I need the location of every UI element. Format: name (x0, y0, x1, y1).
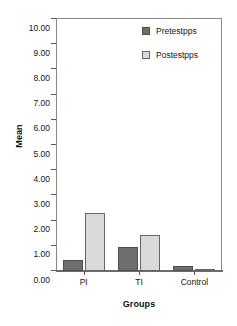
y-axis-tick-label: 10.00 (14, 24, 50, 33)
y-axis-tick-mark (51, 94, 56, 95)
bar-ti-postest (140, 235, 160, 271)
y-axis-tick-label: 2.00 (14, 225, 50, 234)
x-axis-tick-mark (84, 271, 85, 275)
y-axis-tick-label: 8.00 (14, 74, 50, 83)
y-axis-tick-mark (51, 68, 56, 69)
legend-label-postest: Postestpps (156, 50, 198, 60)
legend-item-pretest: Pretestpps (142, 26, 218, 36)
y-axis-tick-label: 5.00 (14, 150, 50, 159)
y-axis-tick-label: 0.00 (14, 276, 50, 285)
y-axis-tick-label: 3.00 (14, 200, 50, 209)
x-axis-tick-mark (139, 271, 140, 275)
x-axis-tick-mark (194, 271, 195, 275)
bar-pi-pretest (63, 260, 83, 271)
x-axis-title: Groups (56, 299, 222, 309)
legend-swatch-pretest-icon (142, 27, 150, 35)
y-axis-tick-mark (51, 119, 56, 120)
bar-control-postest (195, 269, 215, 271)
y-axis-tick-label: 4.00 (14, 175, 50, 184)
x-axis-tick-label: PI (54, 277, 114, 287)
y-axis-tick-mark (51, 144, 56, 145)
legend-swatch-postest-icon (142, 51, 150, 59)
bar-pi-postest (85, 213, 105, 271)
y-axis-tick-mark (51, 220, 56, 221)
legend-label-pretest: Pretestpps (156, 26, 197, 36)
y-axis-tick-labels: 10.009.008.007.006.005.004.003.002.001.0… (14, 14, 50, 278)
y-axis-tick-label: 7.00 (14, 99, 50, 108)
y-axis-tick-mark (51, 43, 56, 44)
bar-chart: Mean 10.009.008.007.006.005.004.003.002.… (0, 0, 237, 326)
y-axis-tick-label: 6.00 (14, 124, 50, 133)
x-axis-tick-label: TI (109, 277, 169, 287)
y-axis-tick-mark (51, 169, 56, 170)
bar-ti-pretest (118, 247, 138, 271)
y-axis-tick-label: 9.00 (14, 49, 50, 58)
y-axis-tick-mark (51, 18, 56, 19)
y-axis-tick-mark (51, 194, 56, 195)
legend-item-postest: Postestpps (142, 50, 218, 60)
chart-legend: Pretestpps Postestpps (142, 26, 218, 74)
y-axis-tick-mark (51, 245, 56, 246)
y-axis-tick-label: 1.00 (14, 250, 50, 259)
x-axis-tick-label: Control (164, 277, 224, 287)
bar-control-pretest (173, 266, 193, 271)
y-axis-tick-mark (51, 270, 56, 271)
